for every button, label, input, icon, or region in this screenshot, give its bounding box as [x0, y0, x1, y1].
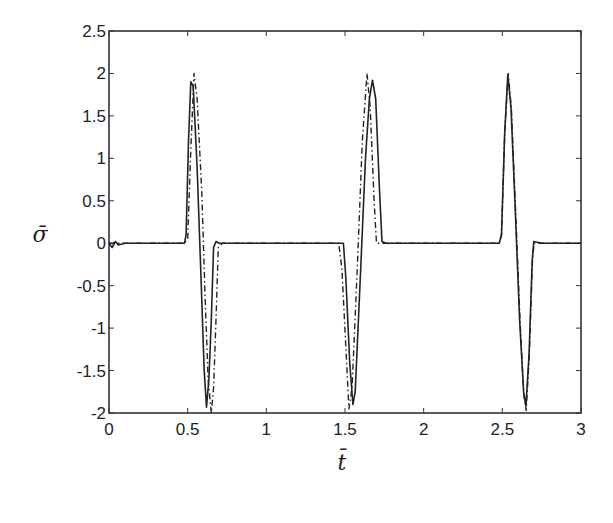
- x-tick-label: 1: [262, 420, 271, 439]
- y-tick-label: -1.5: [77, 362, 106, 381]
- x-tick-label: 2.5: [491, 420, 515, 439]
- x-tick-label: 1.5: [333, 420, 357, 439]
- line-chart: 00.511.522.53-2-1.5-1-0.500.511.522.5 t̄…: [0, 0, 613, 523]
- y-tick-label: -2: [91, 404, 106, 423]
- x-tick-label: 2: [419, 420, 428, 439]
- y-tick-label: 2: [97, 64, 106, 83]
- y-tick-label: 1: [97, 149, 106, 168]
- x-tick-label: 3: [576, 420, 585, 439]
- y-tick-label: 0.5: [82, 192, 106, 211]
- y-tick-label: 1.5: [82, 107, 106, 126]
- y-tick-label: 0: [97, 234, 106, 253]
- y-tick-label: 2.5: [82, 22, 106, 41]
- x-tick-label: 0.5: [176, 420, 200, 439]
- series-solid: [109, 75, 581, 407]
- x-axis-label: t̄: [338, 448, 348, 475]
- y-tick-label: -0.5: [77, 277, 106, 296]
- series-dash-dot: [109, 73, 581, 413]
- y-axis-label: σ̄: [32, 222, 48, 247]
- data-series: [109, 73, 581, 413]
- y-tick-label: -1: [91, 319, 106, 338]
